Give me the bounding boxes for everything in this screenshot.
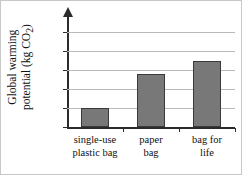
y-axis-title: Global warming potential (kg CO2) [1, 1, 41, 134]
y-axis-title-text: Global warming potential (kg CO2) [6, 25, 36, 111]
y-axis-tick-mark [63, 51, 67, 52]
x-axis-category-label-line-1: paper [139, 134, 162, 145]
plot-area: 0246810 [67, 23, 235, 127]
bar [137, 74, 165, 127]
bar-chart-figure: Global warming potential (kg CO2) 024681… [0, 0, 242, 175]
bar [193, 61, 221, 127]
x-axis-category-label-line-1: bag for [192, 134, 222, 145]
y-axis-tick-mark [63, 32, 67, 33]
x-axis-category-label-line-2: life [179, 147, 235, 160]
x-axis-tick-mark [235, 128, 236, 132]
y-axis-title-line-2: potential (kg CO2) [19, 25, 36, 111]
y-axis-tick-mark [63, 127, 67, 128]
x-axis-tick-mark [123, 128, 124, 132]
y-axis-tick-mark [63, 70, 67, 71]
y-axis-tick-mark [63, 108, 67, 109]
y-axis-title-line-2-end: ) [19, 25, 31, 29]
y-axis-arrow-icon [63, 7, 73, 17]
x-axis-category-label-line-2: bag [123, 147, 179, 160]
x-axis-category-label-line-1: single-use [74, 134, 117, 145]
x-axis-category-label-line-2: plastic bag [67, 147, 123, 160]
x-axis-tick-mark [179, 128, 180, 132]
y-axis-title-subscript: 2 [24, 28, 35, 33]
gridline [67, 51, 235, 52]
x-axis-category-label: bag forlife [179, 134, 235, 159]
bar [81, 108, 109, 127]
y-axis-tick-mark [63, 89, 67, 90]
x-axis-line [67, 127, 235, 129]
y-axis-title-line-2-main: potential (kg CO [19, 33, 31, 110]
gridline [67, 32, 235, 33]
x-axis-category-label: single-useplastic bag [67, 134, 123, 159]
x-axis-category-label: paperbag [123, 134, 179, 159]
y-axis-title-line-1: Global warming [6, 30, 18, 105]
